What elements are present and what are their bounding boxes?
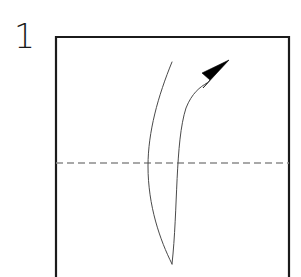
origami-figure-svg: [0, 0, 301, 277]
origami-step-diagram: 1: [0, 0, 301, 277]
paper-sheet-fill: [56, 37, 289, 277]
